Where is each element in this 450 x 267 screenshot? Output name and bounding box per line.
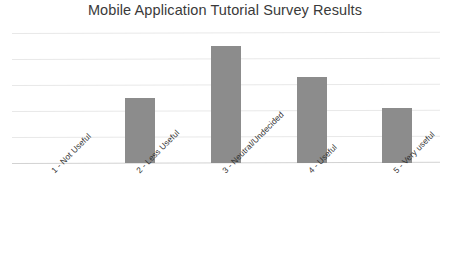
x-axis-labels: 1 - Not Useful2 - Less Useful3 - Neutral… bbox=[0, 168, 450, 267]
bar-3 bbox=[211, 46, 241, 163]
chart-title: Mobile Application Tutorial Survey Resul… bbox=[0, 2, 450, 18]
bar-chart: Mobile Application Tutorial Survey Resul… bbox=[0, 0, 450, 267]
